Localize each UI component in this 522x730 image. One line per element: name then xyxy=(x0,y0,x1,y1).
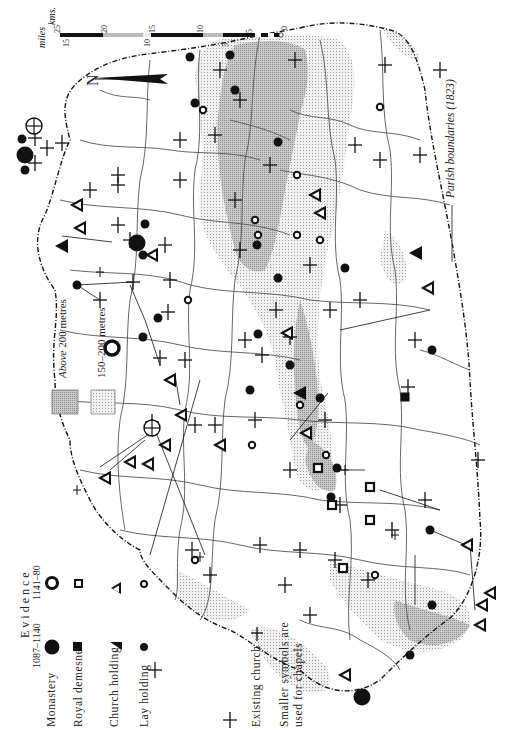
legend-note-line-2: used for chapels xyxy=(292,643,304,727)
legend-note-line-1: Smaller symbols are xyxy=(278,622,290,727)
scale-kms-label: kms. xyxy=(46,7,57,25)
scale-mile-tick-5: 5 xyxy=(221,43,230,47)
legend-label-lay-holding: Lay holding xyxy=(138,665,150,728)
legend-label-monastery: Monastery xyxy=(45,672,57,727)
scale-km-tick-5: 5 xyxy=(245,29,254,33)
evidence-column-early: 1087–1140 xyxy=(31,623,42,668)
scale-mile-tick-15: 15 xyxy=(62,39,71,47)
legend-label-existing-church: Existing church xyxy=(250,646,262,728)
evidence-column-late: 1141–80 xyxy=(31,565,42,600)
scale-miles-label: miles xyxy=(36,27,47,48)
relief-above-200-italic: Above xyxy=(56,351,68,378)
relief-150-200-label: 150–200 metres xyxy=(95,307,107,378)
relief-above-200-plain: 200 metres xyxy=(56,299,68,348)
scale-bar xyxy=(60,33,283,37)
scale-km-tick-0: 0 xyxy=(280,26,289,30)
scale-km-tick-25: 25 xyxy=(53,25,62,33)
relief-above-200-label: Above 200 metres xyxy=(56,299,68,378)
scale-km-tick-20: 20 xyxy=(100,25,109,33)
legend-label-royal-demesne: Royal demesne xyxy=(72,649,84,727)
north-label: N xyxy=(84,74,102,86)
scale-km-tick-15: 15 xyxy=(148,25,157,33)
parish-boundaries-label: Parish boundaries (1823) xyxy=(444,79,456,198)
legend-label-church-holding: Church holding xyxy=(108,647,120,727)
relief-150-200-plain: 150–200 metres xyxy=(95,307,107,378)
scale-mile-tick-10: 10 xyxy=(143,39,152,47)
scale-km-tick-10: 10 xyxy=(196,25,205,33)
